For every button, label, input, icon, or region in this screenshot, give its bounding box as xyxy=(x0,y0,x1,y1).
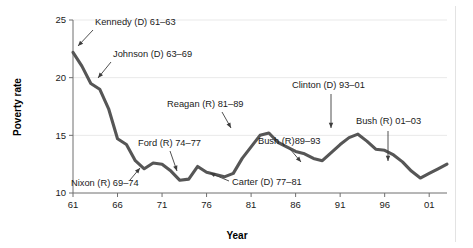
annotation-label-nixon: Nixon (R) 69–74 xyxy=(71,178,139,188)
x-tick-label-96: 96 xyxy=(379,199,390,210)
x-axis-title: Year xyxy=(226,230,247,241)
annotation-clinton: Clinton (D) 93–01 xyxy=(292,80,365,128)
x-tick-label-66: 66 xyxy=(112,199,123,210)
annotation-kennedy: Kennedy (D) 61–63 xyxy=(78,17,176,46)
tick-marks-group xyxy=(69,20,429,197)
page-edge-divider xyxy=(455,6,456,242)
y-tick-label-10: 10 xyxy=(55,187,66,198)
y-axis-tick-labels: 10152025 xyxy=(55,14,66,198)
chart-canvas: 616671768186919601 10152025 Kennedy (D) … xyxy=(0,0,473,248)
annotation-label-ford: Ford (R) 74–77 xyxy=(138,138,201,148)
annotation-label-johnson: Johnson (D) 63–69 xyxy=(113,49,192,59)
annotation-label-reagan: Reagan (R) 81–89 xyxy=(167,99,244,109)
x-tick-label-76: 76 xyxy=(201,199,212,210)
annotation-arrowhead-clinton xyxy=(329,123,333,128)
annotation-label-clinton: Clinton (D) 93–01 xyxy=(292,80,365,90)
annotation-label-bush41: Bush (R)89–93 xyxy=(258,136,321,146)
annotation-arrowhead-bush43 xyxy=(386,156,390,161)
x-tick-label-61: 61 xyxy=(68,199,79,210)
annotation-label-carter: Carter (D) 77–81 xyxy=(232,177,302,187)
x-tick-label-91: 91 xyxy=(335,199,346,210)
y-axis-title: Poverty rate xyxy=(12,78,23,136)
x-tick-label-86: 86 xyxy=(290,199,301,210)
x-tick-label-01: 01 xyxy=(424,199,435,210)
annotation-nixon: Nixon (R) 69–74 xyxy=(71,168,140,188)
annotation-arrowhead-ford xyxy=(173,165,177,171)
x-tick-label-71: 71 xyxy=(157,199,168,210)
poverty-rate-line-chart: 616671768186919601 10152025 Kennedy (D) … xyxy=(0,0,473,248)
x-axis-tick-labels: 616671768186919601 xyxy=(68,199,435,210)
y-tick-label-15: 15 xyxy=(55,130,66,141)
y-tick-label-20: 20 xyxy=(55,72,66,83)
annotation-reagan: Reagan (R) 81–89 xyxy=(167,99,244,128)
annotations-group: Kennedy (D) 61–63Johnson (D) 63–69Nixon … xyxy=(71,17,421,188)
x-tick-label-81: 81 xyxy=(246,199,257,210)
annotation-label-bush43: Bush (R) 01–03 xyxy=(356,116,421,126)
axes-group xyxy=(73,20,447,193)
y-tick-label-25: 25 xyxy=(55,14,66,25)
annotation-johnson: Johnson (D) 63–69 xyxy=(98,49,192,78)
annotation-label-kennedy: Kennedy (D) 61–63 xyxy=(95,17,176,27)
